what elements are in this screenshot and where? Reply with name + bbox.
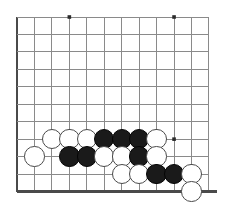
white-stone[interactable] [181, 181, 201, 201]
star-point [172, 137, 176, 141]
star-point [172, 15, 176, 19]
white-stone[interactable] [24, 146, 44, 166]
go-diagram [0, 0, 240, 207]
star-point [68, 15, 72, 19]
